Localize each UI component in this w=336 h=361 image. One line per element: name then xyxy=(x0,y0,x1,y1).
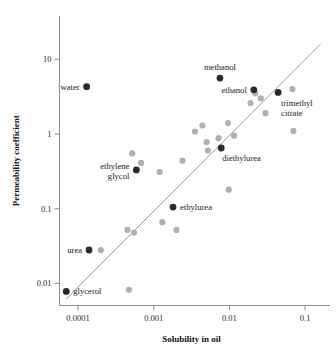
data-point-labeled xyxy=(86,247,93,254)
data-point xyxy=(204,139,210,145)
data-point xyxy=(205,147,211,153)
data-point-labeled xyxy=(83,83,90,90)
data-point xyxy=(138,160,144,166)
scatter-plot: 0.00010.0010.010.10.010.1110Solubility i… xyxy=(0,0,336,361)
data-point xyxy=(225,120,231,126)
data-point xyxy=(179,158,185,164)
point-label: ethanol xyxy=(221,85,247,95)
y-axis: 0.010.1110 xyxy=(37,54,60,288)
data-point-labeled xyxy=(63,288,70,295)
data-point xyxy=(131,229,137,235)
data-point-labeled xyxy=(133,167,140,174)
point-label: glycol xyxy=(108,171,130,181)
point-label: methanol xyxy=(204,62,237,72)
x-tick-label: 0.001 xyxy=(144,313,163,323)
data-point-labeled xyxy=(275,89,282,96)
x-tick-label: 0.1 xyxy=(300,313,311,323)
data-point xyxy=(126,287,132,293)
y-tick-label: 1 xyxy=(47,129,51,139)
point-label: glycerol xyxy=(73,286,102,296)
data-point xyxy=(262,110,268,116)
data-point-labeled xyxy=(218,145,225,152)
y-axis-title: Permeability coefficient xyxy=(11,115,21,206)
point-label: diethylurea xyxy=(222,153,261,163)
data-point xyxy=(290,128,296,134)
data-point xyxy=(124,227,130,233)
x-tick-label: 0.0001 xyxy=(66,313,89,323)
y-tick-label: 10 xyxy=(43,54,52,64)
data-point xyxy=(231,133,237,139)
point-label: water xyxy=(61,82,80,92)
point-label: trimethyl xyxy=(281,98,313,108)
y-tick-label: 0.01 xyxy=(37,278,52,288)
point-label: citrate xyxy=(281,108,303,118)
data-point xyxy=(129,150,135,156)
trend-line xyxy=(66,44,320,299)
data-point xyxy=(173,227,179,233)
data-point xyxy=(98,247,104,253)
data-point xyxy=(199,122,205,128)
point-label: ethylene xyxy=(100,161,129,171)
x-axis-title: Solubility in oil xyxy=(162,334,221,344)
chart-figure: 0.00010.0010.010.10.010.1110Solubility i… xyxy=(0,0,336,361)
data-point-labeled xyxy=(250,86,257,93)
data-point xyxy=(258,95,264,101)
point-label: ethylurea xyxy=(180,202,212,212)
x-axis: 0.00010.0010.010.1 xyxy=(66,306,310,323)
data-point xyxy=(159,219,165,225)
data-point-labeled xyxy=(170,204,177,211)
data-point xyxy=(216,135,222,141)
unlabeled-points xyxy=(98,86,297,293)
y-tick-label: 0.1 xyxy=(41,204,52,214)
data-point xyxy=(289,86,295,92)
point-label: urea xyxy=(67,245,82,255)
x-tick-label: 0.01 xyxy=(222,313,237,323)
data-point xyxy=(157,169,163,175)
labeled-points: watermethanolethanoltrimethylcitratediet… xyxy=(61,62,314,296)
data-point xyxy=(226,187,232,193)
data-point-labeled xyxy=(217,75,224,82)
data-point xyxy=(192,128,198,134)
data-point xyxy=(247,100,253,106)
